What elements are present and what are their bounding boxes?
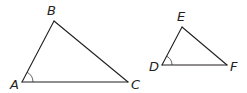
triangle-def: D E F <box>149 9 238 74</box>
edge-bc <box>54 21 128 82</box>
vertex-label-d: D <box>149 59 159 74</box>
vertex-label-e: E <box>177 9 186 24</box>
angle-mark-a <box>27 72 33 82</box>
edge-ef <box>182 27 227 65</box>
vertex-label-a: A <box>9 77 19 92</box>
vertex-label-c: C <box>131 77 141 92</box>
triangle-diagram: A B C D E F <box>0 0 247 93</box>
edge-ab <box>22 21 54 82</box>
edge-de <box>162 27 182 65</box>
vertex-label-f: F <box>230 59 238 74</box>
angle-mark-d <box>167 56 172 65</box>
triangle-abc: A B C <box>9 3 141 92</box>
vertex-label-b: B <box>47 3 56 18</box>
